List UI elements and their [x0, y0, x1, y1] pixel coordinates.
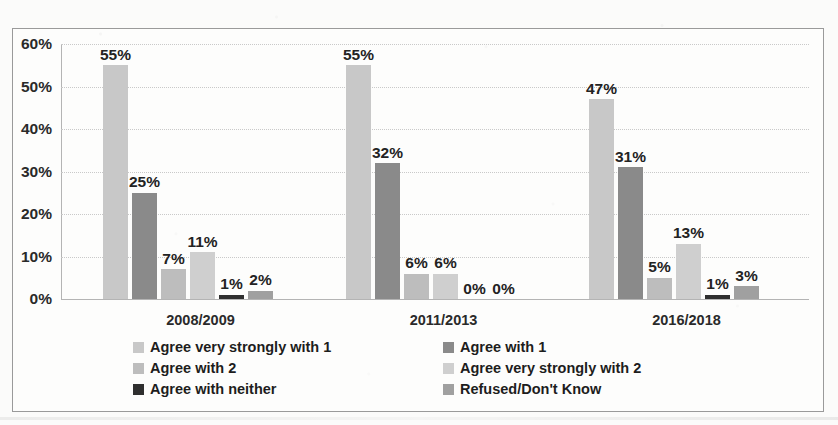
bar-value-label: 13% — [673, 225, 704, 241]
x-axis-category-label: 2011/2013 — [346, 312, 541, 328]
legend-label: Agree very strongly with 1 — [150, 339, 331, 355]
bar-group-bars: 55%32%6%6%0%0% — [346, 44, 541, 299]
bar-value-label: 7% — [162, 251, 184, 267]
bar-slot: 2% — [248, 44, 273, 299]
legend-label: Agree with neither — [150, 381, 277, 397]
y-axis-tick-label: 50% — [21, 78, 52, 96]
legend-item[interactable]: Agree with 2 — [133, 360, 423, 376]
bar-value-label: 2% — [249, 272, 271, 288]
bar-slot: 5% — [647, 44, 672, 299]
bar-value-label: 55% — [100, 47, 131, 63]
legend-swatch — [443, 384, 454, 395]
bar[interactable] — [433, 274, 458, 300]
bar[interactable] — [103, 65, 128, 299]
y-axis-tick-label: 60% — [21, 35, 52, 53]
bar-slot: 11% — [190, 44, 215, 299]
bar[interactable] — [676, 244, 701, 299]
bar-value-label: 6% — [405, 255, 427, 271]
legend-swatch — [443, 363, 454, 374]
y-axis-tick-label: 20% — [21, 205, 52, 223]
bar[interactable] — [219, 295, 244, 299]
bar-slot: 1% — [219, 44, 244, 299]
legend-swatch — [443, 342, 454, 353]
bar[interactable] — [404, 274, 429, 300]
y-axis-tick-label: 30% — [21, 163, 52, 181]
bar-slot: 31% — [618, 44, 643, 299]
bar-value-label: 47% — [586, 81, 617, 97]
bar[interactable] — [190, 252, 215, 299]
gridline — [61, 299, 809, 300]
bar-slot: 1% — [705, 44, 730, 299]
bar-value-label: 0% — [492, 281, 514, 297]
bar-slot: 0% — [491, 44, 516, 299]
bar-slot: 13% — [676, 44, 701, 299]
bar-value-label: 3% — [735, 268, 757, 284]
bar-value-label: 1% — [706, 276, 728, 292]
legend-swatch — [133, 363, 144, 374]
chart-frame: 60%50%40%30%20%10%0% 55%25%7%11%1%2%2008… — [12, 28, 824, 412]
chart-page: 60%50%40%30%20%10%0% 55%25%7%11%1%2%2008… — [0, 0, 838, 425]
bar-group: 55%25%7%11%1%2%2008/2009 — [103, 44, 298, 299]
bar[interactable] — [346, 65, 371, 299]
x-axis-category-label: 2008/2009 — [103, 312, 298, 328]
bar[interactable] — [618, 167, 643, 299]
legend-item[interactable]: Agree very strongly with 2 — [443, 360, 733, 376]
bar-slot: 55% — [346, 44, 371, 299]
plot-area: 60%50%40%30%20%10%0% 55%25%7%11%1%2%2008… — [61, 44, 809, 299]
legend-item[interactable]: Agree with 1 — [443, 339, 733, 355]
bar[interactable] — [705, 295, 730, 299]
chart-legend: Agree very strongly with 1Agree with 1Ag… — [133, 339, 733, 397]
x-axis-category-label: 2016/2018 — [589, 312, 784, 328]
bar-value-label: 5% — [648, 259, 670, 275]
bar-value-label: 1% — [220, 276, 242, 292]
legend-label: Refused/Don't Know — [460, 381, 601, 397]
bar[interactable] — [248, 291, 273, 300]
legend-item[interactable]: Refused/Don't Know — [443, 381, 733, 397]
bar-slot: 0% — [462, 44, 487, 299]
legend-label: Agree very strongly with 2 — [460, 360, 641, 376]
bar-slot: 7% — [161, 44, 186, 299]
y-axis-tick-label: 0% — [30, 290, 52, 308]
bar-slot: 47% — [589, 44, 614, 299]
bar-slot: 3% — [734, 44, 759, 299]
bar-group-bars: 55%25%7%11%1%2% — [103, 44, 298, 299]
legend-item[interactable]: Agree with neither — [133, 381, 423, 397]
bar-value-label: 6% — [434, 255, 456, 271]
y-axis-tick-label: 40% — [21, 120, 52, 138]
bar-value-label: 31% — [615, 149, 646, 165]
bar-group: 47%31%5%13%1%3%2016/2018 — [589, 44, 784, 299]
bar-value-label: 55% — [343, 47, 374, 63]
bar-group: 55%32%6%6%0%0%2011/2013 — [346, 44, 541, 299]
bar-group-bars: 47%31%5%13%1%3% — [589, 44, 784, 299]
legend-swatch — [133, 342, 144, 353]
scan-bottom-edge — [0, 417, 838, 420]
bar[interactable] — [375, 163, 400, 299]
bar-slot: 55% — [103, 44, 128, 299]
bar-slot: 32% — [375, 44, 400, 299]
bar-slot: 25% — [132, 44, 157, 299]
bar[interactable] — [589, 99, 614, 299]
bar-slot: 6% — [404, 44, 429, 299]
bar-value-label: 32% — [372, 145, 403, 161]
legend-item[interactable]: Agree very strongly with 1 — [133, 339, 423, 355]
bar-value-label: 11% — [187, 234, 217, 250]
bar[interactable] — [161, 269, 186, 299]
bar[interactable] — [647, 278, 672, 299]
bar-value-label: 0% — [463, 281, 485, 297]
bar-value-label: 25% — [129, 174, 160, 190]
bar[interactable] — [132, 193, 157, 299]
legend-label: Agree with 1 — [460, 339, 546, 355]
bar-slot: 6% — [433, 44, 458, 299]
bar[interactable] — [734, 286, 759, 299]
cropped-caption-text — [16, 0, 806, 8]
legend-label: Agree with 2 — [150, 360, 236, 376]
y-axis-tick-label: 10% — [21, 248, 52, 266]
legend-swatch — [133, 384, 144, 395]
